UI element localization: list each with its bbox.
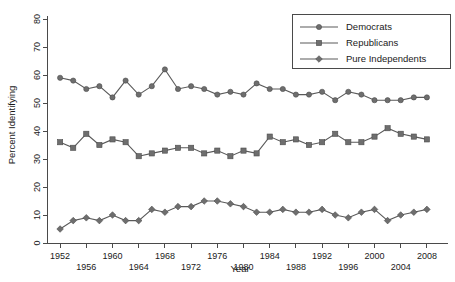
data-point-square: [241, 148, 246, 153]
x-tick-label: 1988: [286, 262, 306, 272]
chart-legend: DemocratsRepublicansPure Independents: [292, 14, 450, 68]
data-point-square: [346, 140, 351, 145]
data-point-circle: [110, 95, 115, 100]
data-point-diamond: [70, 217, 77, 224]
data-point-circle: [149, 84, 154, 89]
x-tick-label: 1960: [102, 251, 122, 261]
y-tick-label: 60: [32, 70, 42, 80]
data-point-circle: [84, 86, 89, 91]
series-pure-independents: [57, 198, 430, 233]
data-point-square: [316, 40, 321, 45]
data-point-diamond: [83, 215, 90, 222]
y-tick-label: 50: [32, 98, 42, 108]
data-point-diamond: [306, 209, 313, 216]
x-tick-label: 2004: [391, 262, 411, 272]
data-point-circle: [97, 84, 102, 89]
x-tick-label: 1996: [338, 262, 358, 272]
y-tick-label: 30: [32, 154, 42, 164]
legend-label: Republicans: [346, 37, 399, 48]
data-point-circle: [372, 98, 377, 103]
y-tick-label: 10: [32, 210, 42, 220]
data-point-circle: [385, 98, 390, 103]
legend-label: Pure Independents: [346, 53, 427, 64]
y-tick-label: 20: [32, 182, 42, 192]
data-point-circle: [58, 75, 63, 80]
data-point-circle: [320, 89, 325, 94]
x-tick-label: 2008: [417, 251, 437, 261]
x-tick-label: 1964: [129, 262, 149, 272]
data-point-circle: [71, 78, 76, 83]
legend-label: Democrats: [346, 21, 392, 32]
data-point-circle: [175, 86, 180, 91]
x-axis-title: Year: [230, 263, 249, 274]
line-chart: 01020304050607080 1952195619601964196819…: [0, 0, 455, 282]
data-point-circle: [215, 92, 220, 97]
data-point-diamond: [411, 209, 418, 216]
data-point-square: [123, 140, 128, 145]
y-axis-title: Percent Identifying: [6, 86, 17, 165]
x-tick-label: 2000: [364, 251, 384, 261]
data-point-diamond: [345, 215, 352, 222]
data-point-square: [267, 134, 272, 139]
data-point-circle: [333, 98, 338, 103]
data-point-square: [306, 142, 311, 147]
y-tick-label: 40: [32, 126, 42, 136]
data-point-circle: [162, 67, 167, 72]
data-point-square: [175, 145, 180, 150]
series-republicans: [58, 126, 430, 159]
data-point-square: [411, 134, 416, 139]
x-tick-label: 1968: [155, 251, 175, 261]
series-layer: [57, 67, 430, 233]
data-point-diamond: [162, 209, 169, 216]
data-point-circle: [293, 92, 298, 97]
data-point-circle: [241, 92, 246, 97]
data-point-square: [202, 151, 207, 156]
data-point-circle: [123, 78, 128, 83]
y-tick-label: 70: [32, 42, 42, 52]
data-point-circle: [280, 86, 285, 91]
data-point-circle: [411, 95, 416, 100]
data-point-square: [293, 137, 298, 142]
data-point-square: [71, 145, 76, 150]
data-point-circle: [316, 24, 321, 29]
data-point-square: [372, 134, 377, 139]
data-point-diamond: [214, 198, 221, 205]
data-point-diamond: [293, 209, 300, 216]
data-point-circle: [306, 92, 311, 97]
data-point-square: [385, 126, 390, 131]
data-point-diamond: [424, 206, 431, 213]
y-axis: 01020304050607080: [32, 14, 47, 246]
x-tick-label: 1976: [207, 251, 227, 261]
data-point-diamond: [319, 206, 326, 213]
data-point-circle: [424, 95, 429, 100]
data-point-square: [333, 131, 338, 136]
data-point-diamond: [280, 206, 287, 213]
data-point-circle: [359, 92, 364, 97]
series-democrats: [58, 67, 430, 103]
data-point-circle: [267, 86, 272, 91]
data-point-diamond: [358, 209, 365, 216]
x-tick-label: 1992: [312, 251, 332, 261]
data-point-square: [136, 154, 141, 159]
data-point-circle: [136, 92, 141, 97]
data-point-square: [320, 140, 325, 145]
x-tick-label: 1972: [181, 262, 201, 272]
data-point-square: [254, 151, 259, 156]
data-point-diamond: [266, 209, 273, 216]
data-point-circle: [189, 84, 194, 89]
x-tick-label: 1984: [260, 251, 280, 261]
data-point-square: [189, 145, 194, 150]
x-tick-label: 1952: [50, 251, 70, 261]
data-point-circle: [346, 89, 351, 94]
data-point-square: [110, 137, 115, 142]
x-tick-label: 1956: [76, 262, 96, 272]
data-point-square: [280, 140, 285, 145]
data-point-square: [228, 154, 233, 159]
data-point-circle: [228, 89, 233, 94]
data-point-diamond: [332, 212, 339, 219]
data-point-diamond: [253, 209, 260, 216]
data-point-square: [97, 142, 102, 147]
y-tick-label: 0: [32, 240, 42, 245]
data-point-square: [424, 137, 429, 142]
data-point-circle: [254, 81, 259, 86]
